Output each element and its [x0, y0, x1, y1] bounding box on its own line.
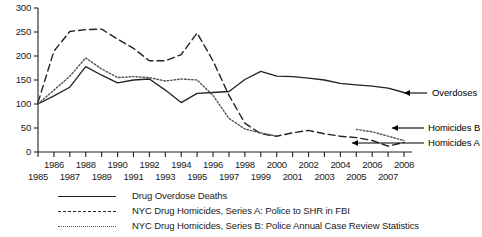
x-tick-label: 1989	[85, 171, 119, 182]
x-tick-label: 1994	[164, 159, 198, 170]
x-tick-label: 1987	[53, 171, 87, 182]
x-tick-label: 1991	[116, 171, 150, 182]
x-tick-label: 2001	[276, 171, 310, 182]
x-tick-label: 2007	[371, 171, 405, 182]
x-tick-label: 2008	[387, 159, 421, 170]
y-tick-label: 150	[1, 74, 31, 85]
chart-legend: Drug Overdose Deaths NYC Drug Homicides,…	[28, 188, 468, 233]
x-tick-label: 1998	[228, 159, 262, 170]
legend-label: NYC Drug Homicides, Series B: Police Ann…	[132, 220, 419, 231]
legend-swatch-dashed-icon	[58, 205, 116, 217]
axes	[34, 8, 412, 157]
x-tick-label: 2000	[260, 159, 294, 170]
x-tick-label: 1988	[69, 159, 103, 170]
chart-figure: 050100150200250300 198519861987198819891…	[0, 0, 482, 237]
y-tick-label: 50	[1, 122, 31, 133]
y-tick-label: 100	[1, 98, 31, 109]
data-series	[38, 29, 404, 146]
x-tick-label: 2006	[355, 159, 389, 170]
x-tick-label: 1992	[132, 159, 166, 170]
y-tick-label: 250	[1, 26, 31, 37]
x-tick-label: 1986	[37, 159, 71, 170]
series-annotation-label: Homicides A	[428, 137, 480, 148]
legend-label: NYC Drug Homicides, Series A: Police to …	[132, 205, 350, 216]
x-tick-label: 1993	[148, 171, 182, 182]
x-tick-label: 2002	[292, 159, 326, 170]
y-tick-label: 300	[1, 2, 31, 13]
x-tick-label: 1985	[21, 171, 55, 182]
x-tick-label: 1995	[180, 171, 214, 182]
y-tick-label: 0	[1, 146, 31, 157]
x-tick-label: 1999	[244, 171, 278, 182]
x-tick-label: 2004	[323, 159, 357, 170]
legend-item: Drug Overdose Deaths	[28, 188, 468, 203]
annotation-arrows	[352, 90, 427, 146]
x-tick-label: 1996	[196, 159, 230, 170]
y-tick-label: 200	[1, 50, 31, 61]
legend-swatch-solid-icon	[58, 190, 116, 202]
series-annotation-label: Homicides B	[428, 122, 480, 133]
legend-swatch-dotted-icon	[58, 220, 116, 232]
legend-item: NYC Drug Homicides, Series B: Police Ann…	[28, 218, 468, 233]
series-annotation-label: Overdoses	[432, 87, 477, 98]
x-tick-label: 1990	[101, 159, 135, 170]
x-tick-label: 2005	[339, 171, 373, 182]
x-tick-label: 2003	[307, 171, 341, 182]
x-tick-label: 1997	[212, 171, 246, 182]
legend-label: Drug Overdose Deaths	[132, 190, 227, 201]
legend-item: NYC Drug Homicides, Series A: Police to …	[28, 203, 468, 218]
